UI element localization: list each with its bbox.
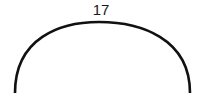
arc-diagram: 17 (0, 0, 197, 111)
arc-length-label: 17 (0, 2, 197, 18)
arc-curve (15, 22, 190, 93)
